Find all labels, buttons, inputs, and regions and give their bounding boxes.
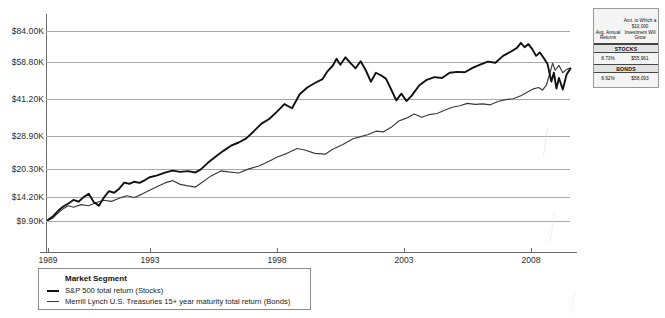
y-tick-label: $9.90K [16, 216, 44, 226]
summary-row-bonds: 8.92% $58,093 [594, 73, 658, 84]
legend-item-bonds[interactable]: Merrill Lynch U.S. Treasuries 15+ year m… [47, 297, 304, 306]
x-tick-label: 2003 [395, 255, 414, 265]
summary-cell-stocks-amount: $55,961 [622, 56, 658, 61]
summary-band-bonds: BONDS [594, 64, 658, 73]
x-tick-label: 1998 [268, 255, 287, 265]
legend-swatch-icon [47, 301, 59, 302]
x-tick-mark [150, 248, 151, 253]
x-tick-mark [48, 248, 49, 253]
x-tick-mark [277, 248, 278, 253]
x-tick-label: 2008 [522, 255, 541, 265]
summary-header-amount-text: Amt. to Which a $10,000 Investment Will … [622, 18, 658, 41]
y-tick-label: $14.20K [12, 192, 44, 202]
y-tick-label: $58.80K [12, 57, 44, 67]
summary-header-avg-return: Avg. Annual Returns [594, 9, 622, 43]
legend-item-label: S&P 500 total return (Stocks) [65, 286, 163, 295]
series-canvas [46, 22, 570, 244]
x-axis-line [40, 252, 577, 253]
legend-title: Market Segment [65, 274, 304, 283]
legend: Market Segment S&P 500 total return (Sto… [38, 268, 311, 310]
x-tick-mark [404, 248, 405, 253]
y-tick-label: $84.00K [12, 26, 44, 36]
plot-area [46, 22, 570, 244]
y-tick-label: $20.30K [12, 164, 44, 174]
legend-item-stocks[interactable]: S&P 500 total return (Stocks) [47, 286, 304, 295]
series-line-stocks [48, 43, 570, 220]
x-tick-label: 1989 [39, 255, 58, 265]
legend-swatch-icon [47, 290, 59, 292]
y-tick-label: $41.20K [12, 94, 44, 104]
summary-header-row: Avg. Annual Returns Amt. to Which a $10,… [594, 9, 658, 44]
scan-artifact [570, 292, 576, 314]
summary-table: Avg. Annual Returns Amt. to Which a $10,… [593, 8, 659, 88]
summary-header-amount: Amt. to Which a $10,000 Investment Will … [622, 9, 658, 43]
summary-cell-bonds-amount: $58,093 [622, 76, 658, 81]
summary-row-stocks: 8.73% $55,961 [594, 53, 658, 64]
x-tick-label: 1993 [141, 255, 160, 265]
x-tick-mark [531, 248, 532, 253]
summary-band-stocks: STOCKS [594, 44, 658, 53]
legend-item-label: Merrill Lynch U.S. Treasuries 15+ year m… [65, 297, 290, 306]
chart-container: $84.00K $58.80K $41.20K $28.90K $20.30K … [0, 0, 665, 318]
summary-cell-bonds-return: 8.92% [594, 76, 622, 81]
summary-cell-stocks-return: 8.73% [594, 56, 622, 61]
y-tick-label: $28.90K [12, 131, 44, 141]
summary-header-avg-return-text: Avg. Annual Returns [594, 30, 622, 41]
